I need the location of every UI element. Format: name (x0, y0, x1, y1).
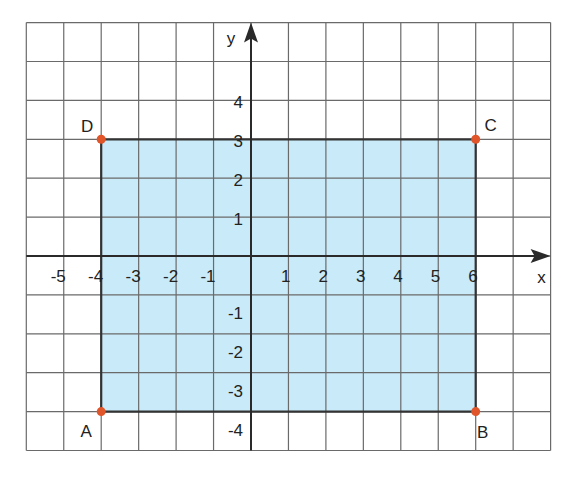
y-tick-label: 2 (234, 171, 243, 190)
y-tick-label: -1 (228, 304, 243, 323)
y-tick-label: 1 (234, 210, 243, 229)
x-tick-label: -5 (51, 267, 66, 286)
vertex-label-c: C (485, 116, 497, 135)
y-tick-label: -3 (228, 382, 243, 401)
vertex-label-b: B (477, 423, 488, 442)
coordinate-plane: xy-5-4-3-2-11234564321-1-2-3-4 ABCD (0, 0, 579, 479)
vertex-label-d: D (81, 117, 93, 136)
x-tick-label: -4 (88, 267, 103, 286)
x-tick-label: 1 (281, 267, 290, 286)
x-tick-label: -2 (163, 267, 178, 286)
vertex-label-a: A (81, 422, 93, 441)
y-tick-label: -4 (228, 421, 243, 440)
y-tick-label: -2 (228, 343, 243, 362)
x-tick-label: 4 (393, 267, 402, 286)
x-tick-label: 5 (431, 267, 440, 286)
vertex-point-a (97, 407, 106, 416)
vertex-point-c (471, 135, 480, 144)
x-tick-label: -3 (126, 267, 141, 286)
vertex-point-b (471, 407, 480, 416)
y-axis-label: y (227, 29, 236, 48)
x-tick-label: -1 (200, 267, 215, 286)
y-tick-label: 4 (234, 93, 243, 112)
vertex-point-d (97, 135, 106, 144)
x-tick-label: 3 (356, 267, 365, 286)
x-tick-label: 6 (468, 267, 477, 286)
x-axis-label: x (537, 268, 546, 287)
y-tick-label: 3 (234, 132, 243, 151)
x-tick-label: 2 (318, 267, 327, 286)
